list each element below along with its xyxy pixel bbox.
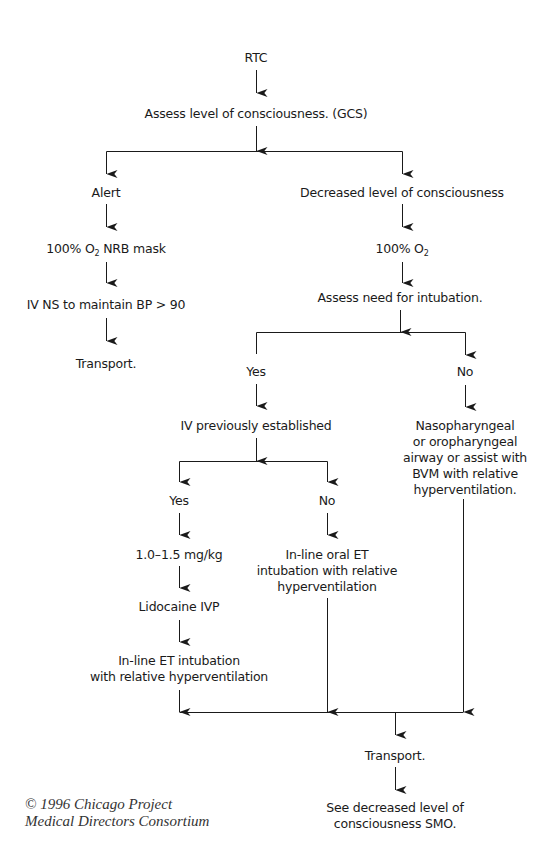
node-alert-oxygen-nrb: 100% O2 NRB mask [46, 241, 166, 257]
node-alert: Alert [92, 185, 121, 201]
node-rtc: RTC [245, 50, 268, 66]
node-intubation-no: No [457, 364, 474, 380]
copyright-credit: © 1996 Chicago Project Medical Directors… [25, 796, 209, 830]
split-consciousness [107, 152, 403, 174]
node-iv-established: IV previously established [180, 418, 331, 434]
split-iv [180, 462, 328, 476]
node-inline-oral-et: In-line oral ET intubation with relative… [257, 547, 398, 595]
node-assess-intubation: Assess need for intubation. [318, 290, 483, 306]
node-airway-bvm: Nasopharyngeal or oropharyngeal airway o… [403, 418, 527, 498]
node-iv-ns: IV NS to maintain BP > 90 [27, 297, 186, 313]
node-final-transport: Transport. [365, 748, 426, 764]
node-inline-et-intubation: In-line ET intubation with relative hype… [90, 653, 268, 685]
split-intubation [257, 333, 466, 355]
node-iv-yes: Yes [169, 493, 189, 509]
flowchart-canvas: RTC Assess level of consciousness. (GCS)… [0, 0, 547, 867]
node-lidocaine: Lidocaine IVP [139, 599, 220, 615]
node-alert-transport: Transport. [76, 356, 137, 372]
node-decreased-oxygen: 100% O2 [375, 241, 428, 257]
node-decreased-consciousness: Decreased level of consciousness [300, 185, 504, 201]
node-intubation-yes: Yes [246, 364, 266, 380]
node-see-smo: See decreased level of consciousness SMO… [326, 800, 463, 832]
node-assess-consciousness: Assess level of consciousness. (GCS) [145, 106, 368, 122]
node-iv-no: No [319, 493, 336, 509]
node-dose: 1.0–1.5 mg/kg [136, 547, 223, 563]
